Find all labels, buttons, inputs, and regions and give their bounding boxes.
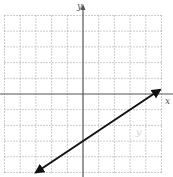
coordinate-plane xyxy=(0,0,173,177)
faint-annotation: y xyxy=(136,127,142,137)
y-axis-label: y xyxy=(77,2,82,11)
axes xyxy=(0,4,173,177)
x-axis-label: x xyxy=(165,97,170,106)
